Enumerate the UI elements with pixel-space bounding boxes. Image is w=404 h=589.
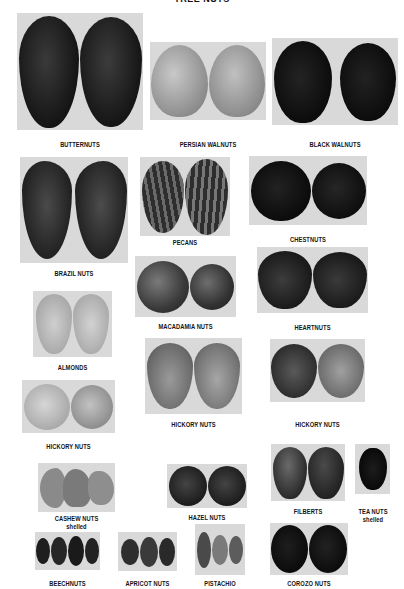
hazel-nut-shape (169, 466, 207, 506)
label-black-walnuts: BLACK WALNUTS (283, 141, 386, 149)
almond-shape (73, 294, 109, 354)
macadamia-shape (137, 261, 189, 313)
hazel-nuts-photo (167, 464, 247, 508)
label-tea-nuts-sublabel: shelled (351, 516, 395, 524)
hickory-nut-shape (271, 344, 317, 398)
corozo-nut-shape (271, 525, 308, 573)
label-hickory-nuts-left: HICKORY NUTS (30, 443, 106, 451)
black-walnut-shape (340, 43, 396, 121)
label-tea-nuts: TEA NUTS shelled (351, 508, 395, 524)
label-pecans: PECANS (148, 239, 222, 247)
label-brazil-nuts: BRAZIL NUTS (30, 270, 119, 278)
macadamia-nuts-photo (135, 256, 236, 317)
beechnut-shape (51, 537, 67, 565)
chestnut-shape (251, 161, 311, 221)
page-title: TREE NUTS (0, 0, 404, 4)
hickory-nuts-left-photo (22, 380, 115, 433)
pistachio-shape (212, 535, 228, 565)
label-hickory-nuts-center: HICKORY NUTS (154, 421, 234, 429)
corozo-nuts-photo (270, 523, 348, 575)
hickory-nuts-right-photo (270, 339, 365, 402)
label-macadamia-nuts: MACADAMIA NUTS (144, 323, 227, 331)
hickory-nut-shape (147, 343, 193, 409)
cashew-shape (63, 469, 91, 507)
label-beechnuts: BEECHNUTS (41, 580, 94, 588)
brazil-nut-shape (75, 161, 127, 259)
black-walnut-shape (274, 41, 332, 123)
corozo-nut-shape (309, 525, 347, 573)
beechnut-shape (68, 536, 84, 566)
almonds-photo (33, 291, 112, 357)
almond-shape (36, 294, 72, 354)
pistachio-shape (229, 536, 243, 564)
pecans-photo (140, 157, 230, 236)
label-persian-walnuts: PERSIAN WALNUTS (160, 141, 255, 149)
heartnuts-photo (257, 247, 368, 313)
black-walnuts-photo (272, 38, 398, 125)
label-butternuts: BUTTERNUTS (28, 141, 131, 149)
cashew-shape (40, 468, 66, 508)
heartnut-shape (313, 252, 367, 308)
persian-walnuts-photo (150, 42, 266, 120)
filbert-shape (273, 447, 307, 499)
hazel-nut-shape (208, 466, 246, 506)
cashew-nuts-photo (38, 463, 115, 512)
pecan-shape (142, 161, 184, 233)
hickory-nut-shape (318, 344, 364, 398)
butternuts-photo (17, 13, 143, 130)
persian-walnut-shape (151, 45, 208, 117)
label-apricot-nuts: APRICOT NUTS (118, 580, 176, 588)
brazil-nut-shape (22, 161, 72, 259)
hickory-nuts-center-photo (145, 338, 242, 414)
apricot-nut-shape (159, 538, 175, 566)
label-hazel-nuts: HAZEL NUTS (174, 514, 240, 522)
label-almonds: ALMONDS (40, 364, 105, 372)
persian-walnut-shape (209, 45, 265, 117)
hickory-nut-shape (194, 343, 240, 409)
beechnut-shape (36, 538, 50, 564)
label-corozo-nuts: COROZO NUTS (277, 580, 341, 588)
label-hickory-nuts-right: HICKORY NUTS (279, 421, 357, 429)
hickory-nut-shape (71, 385, 113, 429)
macadamia-shape (190, 264, 234, 310)
apricot-nut-shape (121, 539, 139, 565)
filbert-shape (308, 447, 344, 499)
tea-nuts-photo (355, 444, 390, 494)
label-filberts: FILBERTS (278, 508, 339, 516)
chestnut-shape (312, 163, 366, 219)
pistachio-shape (197, 532, 211, 568)
label-cashew-nuts-title: CASHEW NUTS (55, 515, 99, 522)
butternut-shape (19, 16, 79, 128)
label-pistachio: PISTACHIO (200, 580, 241, 588)
filberts-photo (271, 444, 345, 501)
cashew-shape (88, 471, 114, 505)
apricot-nut-shape (140, 537, 158, 567)
heartnut-shape (258, 251, 312, 309)
label-heartnuts: HEARTNUTS (267, 324, 358, 332)
hickory-nut-shape (24, 384, 70, 430)
butternut-shape (80, 17, 142, 127)
brazil-nuts-photo (20, 157, 128, 263)
chestnuts-photo (249, 156, 367, 225)
label-tea-nuts-title: TEA NUTS (358, 508, 387, 515)
tea-nut-shape (359, 448, 387, 490)
pistachio-photo (195, 524, 245, 575)
pecan-shape (185, 159, 228, 235)
label-cashew-nuts-sublabel: shelled (45, 523, 108, 531)
label-chestnuts: CHESTNUTS (260, 236, 357, 244)
label-cashew-nuts: CASHEW NUTS shelled (45, 515, 108, 531)
apricot-nuts-photo (118, 532, 177, 571)
beechnuts-photo (35, 532, 100, 570)
beechnut-shape (85, 538, 99, 564)
